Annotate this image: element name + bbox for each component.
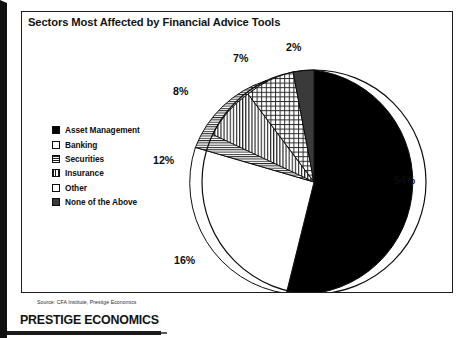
pie-label-insurance: 8% — [173, 85, 188, 97]
legend-label: Securities — [65, 154, 104, 164]
brand-rule-tail — [161, 332, 167, 334]
vertical-lines-swatch-icon — [52, 169, 60, 177]
pie-slices — [190, 70, 413, 293]
white-swatch-icon — [52, 141, 60, 149]
pie-label-asset-management: 54% — [394, 174, 415, 186]
light-swatch-icon — [52, 184, 60, 192]
horizontal-lines-swatch-icon — [52, 155, 60, 163]
legend-label: Insurance — [65, 168, 104, 178]
slide-canvas: Sectors Most Affected by Financial Advic… — [0, 0, 460, 338]
legend-item-none-of-the-above[interactable]: None of the Above — [52, 195, 180, 209]
pie-label-banking: 16% — [174, 254, 195, 266]
chart-legend: Asset Management Banking Securities Insu… — [52, 123, 180, 209]
legend-label: Banking — [65, 140, 97, 150]
legend-item-banking[interactable]: Banking — [52, 137, 180, 151]
dark-gray-swatch-icon — [52, 198, 60, 206]
chart-title-bar: Sectors Most Affected by Financial Advic… — [21, 11, 453, 33]
legend-label: None of the Above — [65, 197, 137, 207]
pie-label-other: 7% — [233, 52, 248, 64]
brand-rule — [7, 331, 161, 335]
page-title: Sectors Most Affected by Financial Advic… — [28, 16, 280, 28]
legend-item-asset-management[interactable]: Asset Management — [52, 123, 180, 137]
brand-wordmark: PRESTIGE ECONOMICS — [20, 313, 159, 327]
legend-label: Asset Management — [65, 125, 140, 135]
legend-label: Other — [65, 183, 87, 193]
pie-label-none-of-the-above: 2% — [286, 41, 301, 53]
solid-black-swatch-icon — [52, 126, 60, 134]
legend-item-insurance[interactable]: Insurance — [52, 166, 180, 180]
legend-item-securities[interactable]: Securities — [52, 152, 180, 166]
legend-item-other[interactable]: Other — [52, 181, 180, 195]
source-note: Source: CFA Institute, Prestige Economic… — [37, 299, 137, 305]
chart-plot-area: 54% 16% 12% 8% 7% 2% Asset Management Ba… — [21, 32, 453, 293]
